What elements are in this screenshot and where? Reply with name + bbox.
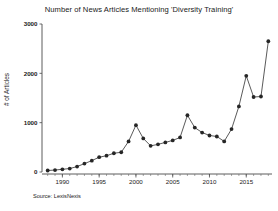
data-point [127,140,131,144]
chart-screenshot: Number of News Articles Mentioning 'Dive… [0,0,278,211]
data-point [112,151,116,155]
data-point [53,168,57,172]
y-tick-label: 2000 [24,70,38,77]
data-point [149,144,153,148]
data-point [252,95,256,99]
data-point [60,167,64,171]
x-tick-label: 2015 [239,178,253,185]
data-point [222,140,226,144]
source-note: Source: LexisNexis [33,193,81,199]
data-point [163,141,167,145]
data-point [186,113,190,117]
data-point [134,123,138,127]
data-point [208,134,212,138]
data-point [200,131,204,135]
data-point [171,139,175,143]
data-point [105,154,109,158]
data-point [237,104,241,108]
data-point [75,165,79,169]
y-tick-label: 3000 [24,20,38,27]
data-point [46,169,50,173]
x-axis: 199019952000200520102015 [42,174,272,185]
data-point [119,150,123,154]
data-point [178,136,182,140]
data-point [244,74,248,78]
data-point [90,159,94,163]
line-chart-plot: 0100020003000 199019952000200520102015 [0,0,278,211]
series-line [48,41,269,170]
data-point [215,135,219,139]
data-point [83,162,87,166]
x-tick-label: 1990 [56,178,70,185]
y-axis: 0100020003000 [24,20,42,175]
data-point [230,127,234,131]
data-point [68,167,72,171]
x-tick-label: 2010 [203,178,217,185]
data-point [156,142,160,146]
data-point [259,95,263,99]
data-point [193,126,197,130]
x-tick-label: 1995 [92,178,106,185]
data-point [266,39,270,43]
y-tick-label: 1000 [24,119,38,126]
data-series [46,39,270,172]
data-point [97,155,101,159]
x-tick-label: 2005 [166,178,180,185]
data-point [141,137,145,141]
x-tick-label: 2000 [129,178,143,185]
y-tick-label: 0 [34,168,38,175]
